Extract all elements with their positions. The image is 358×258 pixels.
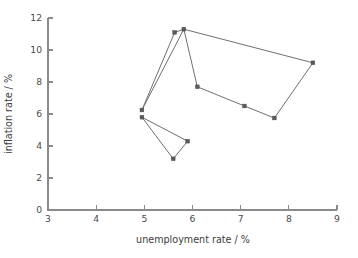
x-axis-label: unemployment rate / %	[136, 234, 250, 245]
x-tick-label: 4	[93, 213, 99, 224]
data-point	[311, 61, 315, 65]
data-point	[171, 157, 175, 161]
x-axis-ticks: 3456789	[45, 205, 340, 224]
chart-svg: 3456789 024681012 unemployment rate / % …	[0, 0, 358, 258]
y-tick-label: 4	[36, 140, 42, 151]
data-point	[186, 139, 190, 143]
data-point	[173, 31, 177, 35]
data-point	[195, 85, 199, 89]
data-point	[272, 116, 276, 120]
data-point	[243, 104, 247, 108]
x-tick-label: 8	[286, 213, 292, 224]
data-series-lines	[142, 29, 313, 159]
x-tick-label: 6	[190, 213, 196, 224]
x-tick-label: 9	[334, 213, 340, 224]
data-point	[140, 115, 144, 119]
y-tick-label: 10	[30, 44, 42, 55]
phillips-curve-chart: 3456789 024681012 unemployment rate / % …	[0, 0, 358, 258]
y-tick-label: 2	[36, 172, 42, 183]
data-point-markers	[140, 27, 315, 160]
data-point	[182, 27, 186, 31]
series-line	[142, 117, 188, 159]
y-tick-label: 8	[36, 76, 42, 87]
axes	[48, 18, 337, 210]
x-tick-label: 3	[45, 213, 51, 224]
axis-spines	[48, 18, 337, 210]
data-point	[140, 108, 144, 112]
y-tick-label: 12	[30, 12, 42, 23]
y-axis-ticks: 024681012	[30, 12, 53, 215]
x-tick-label: 5	[141, 213, 147, 224]
series-line	[142, 29, 313, 118]
y-tick-label: 0	[36, 204, 42, 215]
y-axis-label: inflation rate / %	[3, 74, 14, 154]
x-tick-label: 7	[238, 213, 244, 224]
y-tick-label: 6	[36, 108, 42, 119]
